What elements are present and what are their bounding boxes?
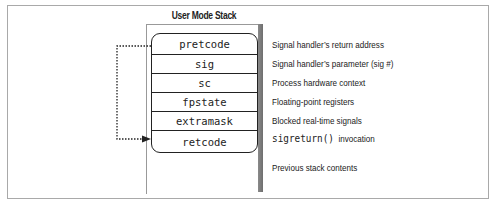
pretcode-to-retcode-arrow [0, 0, 499, 212]
desc-retcode-text: invocation [338, 133, 374, 144]
desc-sig: Signal handler’s parameter (sig #) [272, 58, 393, 69]
sigreturn-code: sigreturn() [272, 132, 334, 145]
desc-extramask: Blocked real-time signals [272, 115, 362, 126]
desc-fpstate: Floating-point registers [272, 96, 354, 107]
arrowhead-icon [142, 136, 151, 143]
desc-pretcode: Signal handler’s return address [272, 39, 384, 50]
desc-previous-stack: Previous stack contents [272, 162, 357, 173]
desc-retcode: sigreturn() invocation [272, 132, 375, 145]
desc-sc: Process hardware context [272, 77, 365, 88]
